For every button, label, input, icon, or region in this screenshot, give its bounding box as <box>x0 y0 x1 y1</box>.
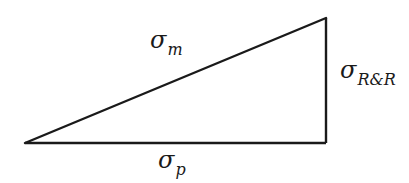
hypotenuse-label: σm <box>150 28 183 52</box>
vertical-subscript: R&R <box>357 70 395 89</box>
base-label: σp <box>158 148 186 172</box>
hypotenuse-subscript: m <box>167 40 182 59</box>
triangle-graphic <box>0 0 409 183</box>
base-symbol: σ <box>158 146 174 174</box>
variance-triangle-diagram: σm σR&R σp <box>0 0 409 183</box>
vertical-symbol: σ <box>340 56 356 84</box>
vertical-label: σR&R <box>340 58 396 82</box>
base-subscript: p <box>175 160 185 179</box>
hypotenuse-symbol: σ <box>150 26 166 54</box>
